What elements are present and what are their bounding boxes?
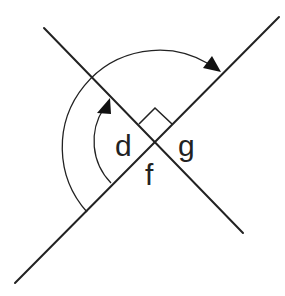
diagram-drawing [0,0,285,296]
right-angle-marker [139,108,172,124]
angle-label-d: d [115,131,132,161]
line-a [15,17,279,283]
geometry-diagram: d g f [0,0,285,296]
angle-label-f: f [145,160,153,190]
outer-arrowhead-icon [203,56,221,72]
angle-label-g: g [178,131,195,161]
inner-arrowhead-icon [97,98,111,114]
inner-arc [94,108,111,183]
